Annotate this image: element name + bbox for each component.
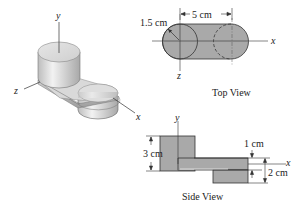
iso-x-label: x xyxy=(135,111,141,122)
lower-height-dimension xyxy=(248,159,268,184)
iso-z-axis xyxy=(24,82,40,89)
thickness-label: 1 cm xyxy=(244,138,264,149)
side-view: y x 3 cm 1 cm xyxy=(143,112,291,202)
radius-label: 1.5 cm xyxy=(140,17,167,28)
top-view: x z 5 cm 1.5 cm Top View xyxy=(140,8,276,98)
top-view-outline xyxy=(163,24,249,59)
iso-y-label: y xyxy=(55,10,61,21)
diagram-canvas: y z x x z 5 cm 1.5 cm Top View xyxy=(0,0,300,207)
side-lower-block xyxy=(213,170,248,183)
height-label: 3 cm xyxy=(143,148,163,159)
top-view-title: Top View xyxy=(212,87,252,98)
spacing-label: 5 cm xyxy=(192,9,212,20)
isometric-view: y z x xyxy=(13,10,141,122)
side-y-label: y xyxy=(174,112,180,123)
iso-z-label: z xyxy=(13,85,18,96)
lower-height-label: 2 cm xyxy=(268,167,288,178)
top-z-label: z xyxy=(176,70,181,81)
side-view-title: Side View xyxy=(182,191,224,202)
top-x-label: x xyxy=(270,35,276,46)
